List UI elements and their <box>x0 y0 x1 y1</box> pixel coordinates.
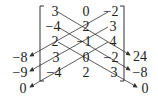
matrix-cell: 3 <box>110 20 117 34</box>
right-bracket <box>120 6 124 81</box>
matrix-cell: 3 <box>53 51 60 65</box>
left-product: −9 <box>13 66 28 80</box>
matrix-cell: 4 <box>110 35 117 49</box>
right-product: −8 <box>133 66 148 80</box>
matrix-cell: 2 <box>83 20 90 34</box>
matrix-cell: 2 <box>52 35 59 49</box>
matrix-cell: −4 <box>47 66 62 80</box>
right-product: 0 <box>142 82 149 96</box>
matrix-cell: 0 <box>83 51 90 65</box>
matrix-cell: −2 <box>104 5 119 19</box>
left-product: 0 <box>20 82 27 96</box>
matrix-cell: −1 <box>77 35 92 49</box>
matrix-cell: 3 <box>111 66 118 80</box>
matrix-cell: 0 <box>83 5 90 19</box>
left-bracket <box>40 6 44 81</box>
matrix-cell: 2 <box>83 66 90 80</box>
right-product: 24 <box>133 50 147 64</box>
left-product: −8 <box>13 51 28 65</box>
matrix-cell: −4 <box>46 20 61 34</box>
matrix-cell: 3 <box>52 5 59 19</box>
matrix-cell: −2 <box>104 51 119 65</box>
